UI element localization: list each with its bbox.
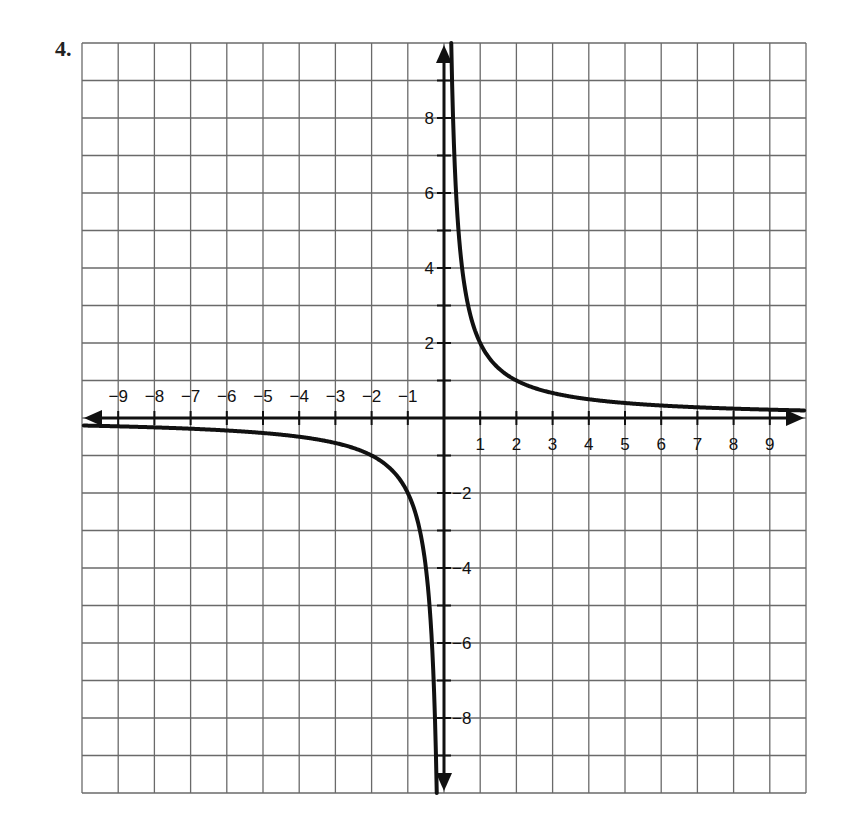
x-tick-label: −4 [290, 387, 309, 406]
x-tick-label: 5 [620, 435, 629, 454]
x-tick-label: −7 [181, 387, 200, 406]
left-branch-curve [84, 426, 437, 793]
y-tick-label: 2 [425, 334, 434, 353]
x-tick-label: −1 [398, 387, 417, 406]
x-tick-label: −8 [145, 387, 164, 406]
axes [84, 45, 804, 791]
y-tick-label: 8 [425, 109, 434, 128]
x-tick-label: 3 [548, 435, 557, 454]
right-branch-curve [451, 43, 804, 410]
y-tick-label: 6 [425, 184, 434, 203]
x-tick-label: −3 [326, 387, 345, 406]
x-tick-label: 4 [584, 435, 593, 454]
x-tick-label: −6 [217, 387, 236, 406]
x-tick-label: 1 [475, 435, 484, 454]
x-tick-label: 8 [729, 435, 738, 454]
x-tick-label: −2 [362, 387, 381, 406]
x-tick-label: 9 [765, 435, 774, 454]
y-tick-label: −4 [452, 559, 471, 578]
x-tick-label: 2 [512, 435, 521, 454]
x-tick-label: −9 [109, 387, 128, 406]
graph: −9−8−7−6−5−4−3−2−11234567898642−2−4−6−8 [0, 0, 847, 828]
y-tick-label: −8 [452, 709, 471, 728]
y-tick-label: −2 [452, 484, 471, 503]
y-tick-label: −6 [452, 634, 471, 653]
x-tick-label: −5 [253, 387, 272, 406]
y-tick-label: 4 [425, 259, 434, 278]
x-tick-label: 7 [693, 435, 702, 454]
x-tick-label: 6 [656, 435, 665, 454]
